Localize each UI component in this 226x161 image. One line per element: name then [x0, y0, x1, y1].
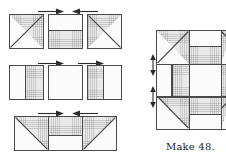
horizontal-seam: [189, 46, 221, 47]
block-seam-vertical-right: [221, 31, 222, 129]
shaded-bar: [25, 66, 43, 99]
light-bar: [10, 66, 25, 99]
finished-middle-left-cell: [157, 64, 189, 97]
light-bar: [189, 31, 221, 46]
shaded-bar: [171, 64, 189, 97]
horizontal-seam: [49, 30, 82, 31]
bottom-center-unit: [48, 116, 83, 151]
shaded-bar: [49, 30, 82, 48]
light-bar: [49, 135, 82, 150]
middle-center-unit: [48, 65, 83, 100]
light-bar: [49, 15, 82, 30]
horizontal-seam: [49, 135, 82, 136]
diagonal-seam: [10, 15, 43, 48]
finished-block: [156, 30, 226, 130]
shaded-bar: [88, 66, 103, 99]
vertical-seam: [103, 66, 104, 99]
top-right-unit: [87, 14, 122, 49]
vertical-seam: [25, 66, 26, 99]
diagonal-seam: [83, 117, 116, 150]
bottom-right-unit: [82, 116, 117, 151]
finished-bottom-center-cell: [189, 96, 221, 129]
bottom-left-unit: [14, 116, 49, 151]
light-square: [49, 66, 82, 99]
shaded-bar: [189, 46, 221, 64]
diagonal-seam: [157, 31, 189, 64]
vertical-seam: [171, 64, 172, 97]
top-left-unit: [9, 14, 44, 49]
diagonal-seam: [88, 15, 121, 48]
finished-top-center-cell: [189, 31, 221, 64]
horizontal-seam: [189, 114, 221, 115]
shaded-bar: [49, 117, 82, 135]
make-count-caption: Make 48.: [166, 141, 215, 152]
block-seam-vertical-left: [189, 31, 190, 129]
shaded-bar: [189, 96, 221, 114]
top-center-unit: [48, 14, 83, 49]
light-bar: [157, 64, 171, 97]
middle-right-unit: [87, 65, 122, 100]
diagonal-seam: [157, 96, 189, 129]
light-bar: [189, 114, 221, 129]
block-seam-horizontal-bottom: [157, 96, 226, 97]
light-bar: [103, 66, 121, 99]
figure-canvas: Make 48.: [0, 0, 226, 161]
middle-left-unit: [9, 65, 44, 100]
finished-top-left-cell: [157, 31, 189, 64]
finished-bottom-left-cell: [157, 96, 189, 129]
block-seam-horizontal-top: [157, 64, 226, 65]
diagonal-seam: [15, 117, 48, 150]
finished-middle-center-cell: [189, 64, 221, 97]
